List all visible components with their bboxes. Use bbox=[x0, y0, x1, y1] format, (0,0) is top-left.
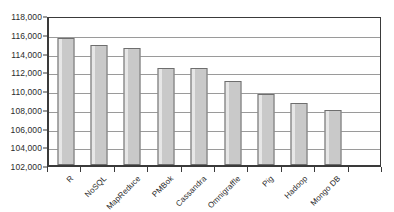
y-axis-tick-label: 108,000 bbox=[11, 106, 42, 116]
x-axis-tick-mark bbox=[348, 167, 349, 172]
x-axis-tick-label: R bbox=[65, 174, 76, 185]
bar bbox=[291, 103, 308, 165]
y-axis-tick-label: 106,000 bbox=[11, 125, 42, 135]
bar-slot bbox=[49, 18, 82, 165]
x-axis-tick-mark bbox=[247, 167, 248, 172]
x-axis-tick-label: Omnigraffle bbox=[206, 174, 242, 210]
bar bbox=[91, 45, 108, 165]
x-axis: RNoSQLMapReducePMBokCassandraOmnigraffle… bbox=[47, 167, 381, 212]
bar bbox=[224, 81, 241, 165]
x-axis-tick-label: Pig bbox=[261, 174, 276, 189]
x-axis-tick-label: MapReduce bbox=[104, 174, 142, 212]
x-axis-tick-label: Cassandra bbox=[174, 174, 208, 208]
x-axis-tick-mark bbox=[381, 167, 382, 172]
x-axis-tick-label: PMBok bbox=[150, 174, 175, 199]
x-axis-tick-mark bbox=[80, 167, 81, 172]
bar bbox=[324, 110, 341, 165]
bar-chart: 118,000116,000114,000112,000110,000108,0… bbox=[0, 0, 394, 212]
bar-slot bbox=[316, 18, 349, 165]
bar bbox=[57, 38, 74, 166]
bar-slot bbox=[249, 18, 282, 165]
x-axis-tick-label: Hadoop bbox=[282, 174, 309, 201]
y-axis-tick-label: 118,000 bbox=[11, 12, 42, 22]
y-axis-tick-label: 102,000 bbox=[11, 162, 42, 172]
x-axis-tick-label: Mongo DB bbox=[309, 174, 343, 208]
y-axis: 118,000116,000114,000112,000110,000108,0… bbox=[0, 17, 47, 167]
bar-slot bbox=[183, 18, 216, 165]
y-axis-tick-label: 116,000 bbox=[11, 31, 42, 41]
x-axis-tick-mark bbox=[114, 167, 115, 172]
x-axis-tick-mark bbox=[147, 167, 148, 172]
bar bbox=[124, 48, 141, 165]
bar-slot bbox=[149, 18, 182, 165]
bar-slot bbox=[350, 18, 383, 165]
bar-slot bbox=[82, 18, 115, 165]
x-axis-tick-mark bbox=[214, 167, 215, 172]
y-axis-tick-label: 112,000 bbox=[11, 68, 42, 78]
x-axis-tick-mark bbox=[181, 167, 182, 172]
bar bbox=[258, 94, 275, 165]
plot-area bbox=[47, 17, 381, 167]
bar bbox=[191, 68, 208, 166]
y-axis-tick-label: 110,000 bbox=[11, 87, 42, 97]
y-axis-tick-label: 114,000 bbox=[11, 50, 42, 60]
x-axis-tick-mark bbox=[281, 167, 282, 172]
x-axis-tick-mark bbox=[47, 167, 48, 172]
bar-slot bbox=[216, 18, 249, 165]
bars-layer bbox=[49, 18, 380, 165]
bar bbox=[157, 68, 174, 165]
bar-slot bbox=[283, 18, 316, 165]
x-axis-tick-mark bbox=[314, 167, 315, 172]
y-axis-tick-label: 104,000 bbox=[11, 143, 42, 153]
x-axis-tick-label: NoSQL bbox=[83, 174, 108, 199]
bar-slot bbox=[116, 18, 149, 165]
